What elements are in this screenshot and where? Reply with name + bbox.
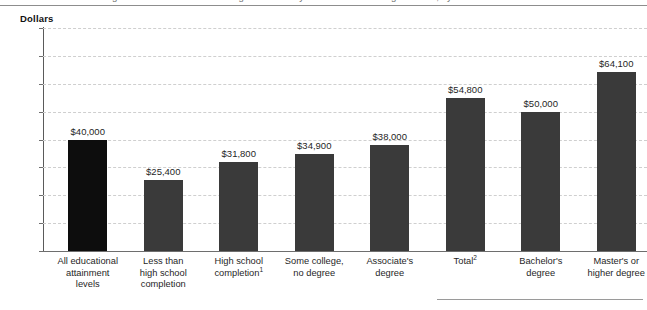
bar[interactable] <box>446 98 485 251</box>
footnote-marker: 2 <box>473 254 477 261</box>
bar-value-label: $64,100 <box>576 58 647 69</box>
bar[interactable] <box>68 140 107 252</box>
x-axis-category-label: Some college,no degree <box>273 256 357 279</box>
bar[interactable] <box>370 145 409 251</box>
gridline <box>43 84 647 85</box>
plot-area: $80,00070,00060,00050,00040,00030,00020,… <box>43 28 647 251</box>
x-axis-category-label: Associate'sdegree <box>348 256 432 279</box>
y-axis-unit-label: Dollars <box>20 13 54 24</box>
bar[interactable] <box>295 154 334 251</box>
category-label-line: High school <box>197 256 281 268</box>
bar[interactable] <box>521 112 560 251</box>
x-axis-category-label: Bachelor'sdegree <box>499 256 583 279</box>
category-label-line: Master's or <box>575 256 647 268</box>
bar-value-label: $31,800 <box>199 148 279 159</box>
y-axis-tick <box>39 112 43 113</box>
category-label-line: completion1 <box>197 268 281 280</box>
x-axis-category-label: Total2 <box>424 256 508 268</box>
gridline <box>43 56 647 57</box>
x-axis-line <box>43 251 647 252</box>
chart-title-text: Figure 1. Median annual earnings of full… <box>104 0 580 2</box>
category-label-line: Associate's <box>348 256 432 268</box>
bar[interactable] <box>144 180 183 251</box>
bar-value-label: $38,000 <box>350 131 430 142</box>
category-label-line: All educational <box>46 256 130 268</box>
x-axis-category-label: Master's orhigher degree <box>575 256 647 279</box>
category-label-line: Some college, <box>273 256 357 268</box>
bar-value-label: $54,800 <box>425 84 505 95</box>
bar-value-label: $25,400 <box>123 166 203 177</box>
category-label-line: degree <box>348 268 432 280</box>
bar-value-label: $50,000 <box>501 98 581 109</box>
footnote-marker: 1 <box>259 265 263 272</box>
y-axis-tick <box>39 84 43 85</box>
title-divider-rule <box>0 5 647 6</box>
x-axis-category-label: Less thanhigh schoolcompletion <box>122 256 206 291</box>
category-label-line: Less than <box>122 256 206 268</box>
y-axis-tick <box>39 56 43 57</box>
category-label-line: Bachelor's <box>499 256 583 268</box>
footnote-bracket-rule <box>437 299 643 300</box>
bar[interactable] <box>219 162 258 251</box>
y-axis-tick <box>39 223 43 224</box>
x-axis-category-label: High schoolcompletion1 <box>197 256 281 279</box>
category-label-line: high school <box>122 268 206 280</box>
x-axis-category-label: All educationalattainmentlevels <box>46 256 130 291</box>
y-axis-tick <box>39 251 43 252</box>
bar-value-label: $34,900 <box>274 140 354 151</box>
category-label-line: degree <box>499 268 583 280</box>
y-axis-tick <box>39 167 43 168</box>
category-label-line: higher degree <box>575 268 647 280</box>
bar[interactable] <box>597 72 636 251</box>
gridline <box>43 28 647 29</box>
category-label-line: Total2 <box>424 256 508 268</box>
category-label-line: completion <box>122 279 206 291</box>
category-label-line: levels <box>46 279 130 291</box>
y-axis-tick <box>39 195 43 196</box>
category-label-line: no degree <box>273 268 357 280</box>
y-axis-tick <box>39 28 43 29</box>
category-label-line: attainment <box>46 268 130 280</box>
bar-value-label: $40,000 <box>48 126 128 137</box>
y-axis-tick <box>39 140 43 141</box>
